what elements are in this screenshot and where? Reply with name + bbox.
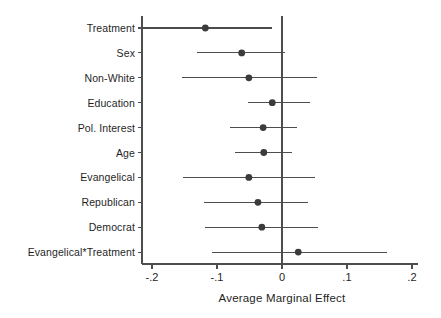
estimate-row bbox=[230, 124, 297, 131]
estimate-row bbox=[204, 199, 308, 206]
point-estimate-marker bbox=[258, 224, 265, 231]
category-label: Evangelical*Treatment bbox=[28, 247, 135, 258]
x-axis-title: Average Marginal Effect bbox=[219, 292, 346, 305]
x-tick-label: -.1 bbox=[210, 271, 223, 283]
category-label: Republican bbox=[81, 197, 135, 208]
estimate-series-group bbox=[143, 25, 387, 256]
estimate-row bbox=[205, 224, 317, 231]
estimate-row bbox=[143, 25, 272, 32]
x-tick-label: .1 bbox=[342, 271, 351, 283]
category-label: Age bbox=[116, 147, 135, 158]
estimate-row bbox=[182, 74, 317, 81]
point-estimate-marker bbox=[269, 99, 276, 106]
estimate-row bbox=[183, 174, 315, 181]
category-label: Sex bbox=[117, 47, 135, 58]
x-tick-label: .2 bbox=[407, 271, 416, 283]
point-estimate-marker bbox=[202, 25, 209, 32]
category-label: Pol. Interest bbox=[78, 122, 135, 133]
x-tick-label: -.2 bbox=[145, 271, 158, 283]
category-label: Education bbox=[87, 97, 135, 108]
x-tick-label: 0 bbox=[279, 271, 285, 283]
category-label: Democrat bbox=[89, 222, 135, 233]
point-estimate-marker bbox=[260, 124, 267, 131]
estimate-row bbox=[248, 99, 310, 106]
point-estimate-marker bbox=[238, 50, 245, 57]
point-estimate-marker bbox=[255, 199, 262, 206]
point-estimate-marker bbox=[245, 74, 252, 81]
category-label: Treatment bbox=[87, 23, 135, 34]
category-label: Evangelical bbox=[80, 172, 135, 183]
point-estimate-marker bbox=[295, 249, 302, 256]
estimate-row bbox=[212, 249, 387, 256]
category-label: Non-White bbox=[85, 72, 136, 83]
estimate-row bbox=[235, 149, 292, 156]
point-estimate-marker bbox=[245, 174, 252, 181]
point-estimate-marker bbox=[260, 149, 267, 156]
axes-group bbox=[138, 16, 418, 269]
coefficient-plot-figure: TreatmentSexNon-WhiteEducationPol. Inter… bbox=[0, 0, 441, 318]
estimate-row bbox=[197, 50, 285, 57]
